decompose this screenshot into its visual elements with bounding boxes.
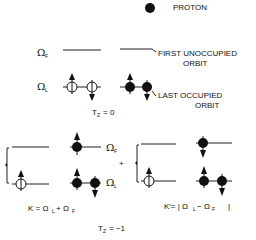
proton-spin-down [142,80,152,101]
right-l-proton-spin-up [199,166,209,188]
last-occupied-label-2: ORBIT [195,101,220,110]
kprime-formula-end: | [228,202,230,211]
k-formula-sub-l: L [52,208,55,214]
k-formula: K = Ω [28,204,48,213]
right-f-proton-spin-down [198,136,208,158]
left-hole-spin-up [16,170,26,191]
last-occupied-label: LAST OCCUPIED [158,91,223,100]
left-omega-l-sub: L [114,183,117,189]
proton-legend-icon [145,3,155,13]
left-l-proton-spin-down [90,176,100,198]
tzm1-sub: Z [103,228,106,234]
right-l-proton-spin-down [217,174,227,196]
first-unoccupied-pointer [152,49,156,52]
tzm1-value: = −1 [109,224,126,233]
left-omega-f-sub: F [114,148,117,154]
last-occupied-pointer [152,91,156,96]
omega-l-sub: L [45,87,48,93]
omega-f-sub: F [45,53,48,59]
first-unoccupied-label-2: ORBIT [183,59,208,68]
hole-spin-up [67,73,77,94]
plus-sign: + [119,159,124,168]
nilsson-orbit-diagram: PROTON Ω F FIRST UNOCCUPIED ORBIT Ω L LA… [0,0,256,240]
tz0-sub: Z [97,112,100,118]
proton-legend-label: PROTON [173,3,207,12]
kprime-formula: K′= | Ω [164,202,188,211]
first-unoccupied-label: FIRST UNOCCUPIED [158,49,237,58]
right-hole-spin-up [144,167,154,188]
k-formula-sub-f: F [72,208,75,214]
left-f-proton-spin-up [72,132,82,155]
kprime-formula-sub-f: F [212,206,215,212]
kprime-formula-sub-l: L [193,206,196,212]
left-l-proton-spin-up [72,168,82,190]
tz0-value: = 0 [103,108,115,117]
left-config-bracket [7,148,9,183]
right-config-bracket [137,145,139,182]
k-formula-mid: + Ω [56,204,69,213]
hole-spin-down [87,80,97,101]
kprime-formula-mid: − Ω [197,202,210,211]
proton-spin-up [125,73,135,94]
